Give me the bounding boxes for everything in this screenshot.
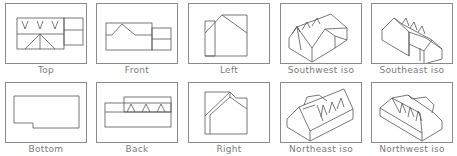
southeast-iso-drawing-icon (372, 4, 452, 63)
view-frame (96, 3, 178, 64)
view-frame (5, 82, 87, 143)
view-label: Northwest iso (365, 144, 457, 154)
northeast-iso-drawing-icon (281, 83, 361, 142)
view-label: Top (0, 65, 93, 75)
view-label: Back (90, 144, 184, 154)
view-label: Left (182, 65, 276, 75)
right-view-drawing-icon (189, 83, 269, 142)
view-label: Front (90, 65, 184, 75)
front-view-drawing-icon (97, 4, 177, 63)
bottom-view-drawing-icon (6, 83, 86, 142)
view-frame (5, 3, 87, 64)
view-frame (280, 3, 362, 64)
left-view-drawing-icon (189, 4, 269, 63)
view-label: Southeast iso (365, 65, 457, 75)
northwest-iso-drawing-icon (372, 83, 452, 142)
view-frame (96, 82, 178, 143)
view-label: Northeast iso (274, 144, 368, 154)
view-frame (188, 82, 270, 143)
view-label: Southwest iso (274, 65, 368, 75)
back-view-drawing-icon (97, 83, 177, 142)
view-label: Right (182, 144, 276, 154)
view-frame (188, 3, 270, 64)
view-label: Bottom (0, 144, 93, 154)
view-frame (280, 82, 362, 143)
southwest-iso-drawing-icon (281, 4, 361, 63)
view-frame (371, 3, 453, 64)
top-view-drawing-icon (6, 4, 86, 63)
view-frame (371, 82, 453, 143)
